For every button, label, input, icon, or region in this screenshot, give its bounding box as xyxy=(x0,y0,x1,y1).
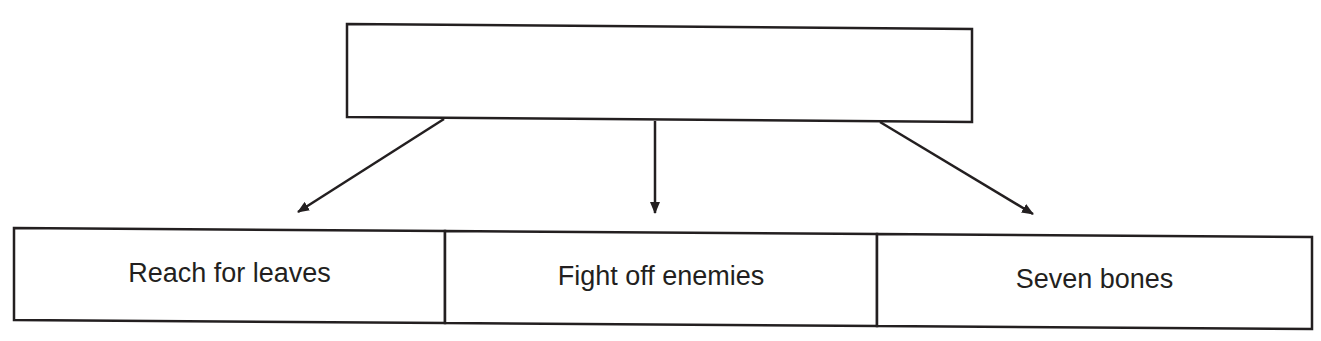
label-reach-for-leaves: Reach for leaves xyxy=(14,258,445,289)
top-empty-box xyxy=(347,24,972,122)
arrow-right xyxy=(880,122,1033,214)
arrow-left xyxy=(298,119,444,212)
label-seven-bones: Seven bones xyxy=(877,264,1312,295)
label-fight-off-enemies: Fight off enemies xyxy=(445,261,877,292)
